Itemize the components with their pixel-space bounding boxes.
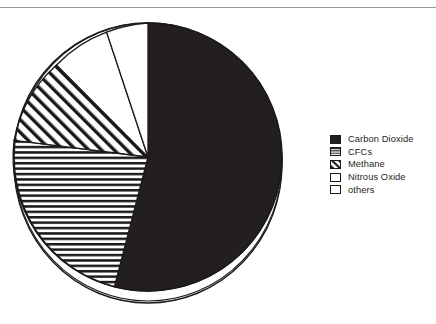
legend-label-nitrous-oxide: Nitrous Oxide — [348, 172, 406, 182]
legend-swatch-others — [330, 185, 341, 194]
pie-chart-figure: Carbon Dioxide CFCs Methane Nitrous Oxid… — [0, 0, 436, 324]
legend-swatch-cfcs — [330, 147, 341, 156]
legend-swatch-carbon-dioxide — [330, 135, 341, 144]
legend-label-methane: Methane — [348, 159, 385, 169]
legend-label-cfcs: CFCs — [348, 147, 372, 157]
pie-chart-svg — [0, 0, 310, 324]
legend-item-nitrous-oxide[interactable]: Nitrous Oxide — [330, 171, 434, 184]
legend-label-carbon-dioxide: Carbon Dioxide — [348, 134, 413, 144]
legend-swatch-nitrous-oxide — [330, 173, 341, 182]
legend-item-others[interactable]: others — [330, 183, 434, 196]
legend-swatch-methane — [330, 160, 341, 169]
legend-item-carbon-dioxide[interactable]: Carbon Dioxide — [330, 133, 434, 146]
chart-legend: Carbon Dioxide CFCs Methane Nitrous Oxid… — [330, 133, 434, 196]
legend-item-cfcs[interactable]: CFCs — [330, 146, 434, 159]
pie-chart-plot-area — [0, 0, 310, 324]
legend-item-methane[interactable]: Methane — [330, 158, 434, 171]
legend-label-others: others — [348, 185, 374, 195]
